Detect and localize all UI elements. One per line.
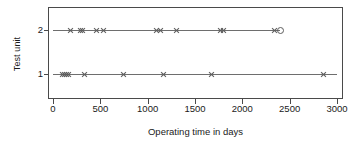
failure-marker-unit-2-4 [100,27,107,34]
failure-marker-unit-2-7 [173,27,180,34]
y-tick-mark-2 [44,30,48,31]
x-tick-label-3000: 3000 [317,103,355,114]
y-tick-label-2: 2 [29,25,43,35]
failure-marker-unit-1-7 [208,71,215,78]
failure-marker-unit-2-9 [220,27,227,34]
failure-marker-unit-1-4 [81,71,88,78]
failure-marker-unit-2-0 [67,27,74,34]
x-tick-label-1000: 1000 [128,103,168,114]
x-tick-label-500: 500 [80,103,120,114]
y-tick-mark-1 [44,74,48,75]
series-line-unit-2 [53,30,280,31]
x-tick-label-0: 0 [33,103,73,114]
y-tick-label-1: 1 [29,69,43,79]
failure-marker-unit-1-8 [319,71,326,78]
failure-marker-unit-1-6 [159,71,166,78]
failure-marker-unit-2-3 [92,27,99,34]
x-tick-label-2000: 2000 [222,103,262,114]
failure-marker-unit-2-2 [79,27,86,34]
event-plot-chart: Test unit 12 050010001500200025003000 Op… [0,0,355,145]
plot-area [48,7,343,99]
y-axis-title: Test unit [10,8,24,100]
failure-marker-unit-2-6 [156,27,163,34]
censored-marker-unit-2-0 [277,27,284,34]
x-axis-title: Operating time in days [48,126,343,138]
series-line-unit-1 [53,74,337,75]
failure-marker-unit-1-5 [120,71,127,78]
x-tick-label-2500: 2500 [270,103,310,114]
x-tick-label-1500: 1500 [175,103,215,114]
failure-marker-unit-1-3 [65,71,72,78]
